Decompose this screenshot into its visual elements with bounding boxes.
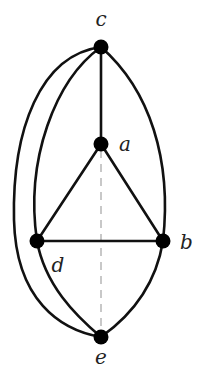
node-label-b: b xyxy=(180,230,193,254)
node-label-c: c xyxy=(95,7,106,31)
node-d xyxy=(30,234,45,249)
node-label-a: a xyxy=(119,132,131,156)
edge-c-d xyxy=(34,47,101,241)
edge-c-e-outer xyxy=(14,47,101,337)
node-b xyxy=(156,234,171,249)
node-e xyxy=(94,330,109,345)
edge-b-e xyxy=(101,241,163,337)
edge-a-b xyxy=(101,144,163,241)
graph-diagram: cadbe xyxy=(0,0,215,380)
edge-d-e xyxy=(37,241,101,337)
node-c xyxy=(94,40,109,55)
node-label-e: e xyxy=(95,345,107,369)
edge-c-b xyxy=(101,47,165,241)
node-a xyxy=(94,137,109,152)
node-label-d: d xyxy=(52,253,65,277)
edge-a-d xyxy=(37,144,101,241)
